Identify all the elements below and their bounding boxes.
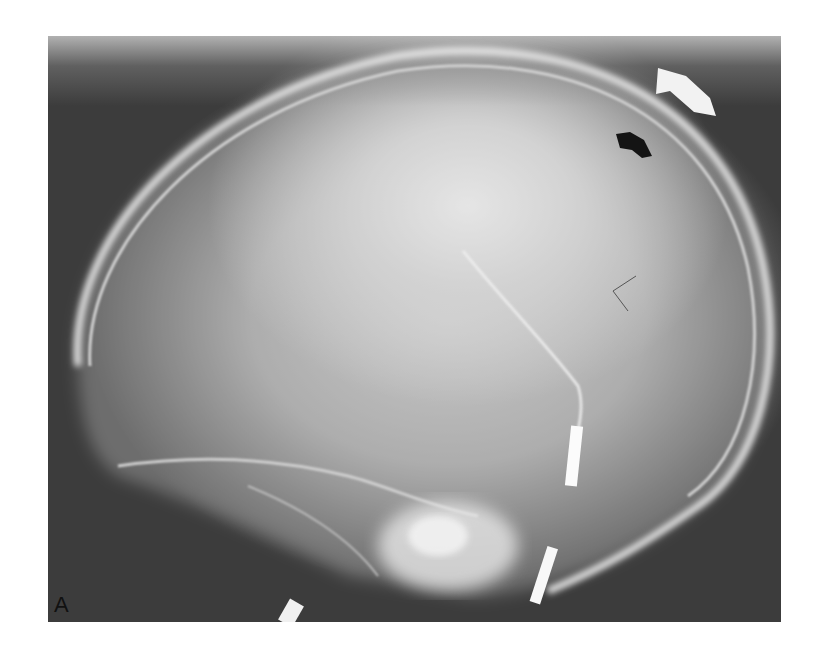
petrous-bone-core [408, 516, 468, 556]
radiograph-image: A [48, 36, 781, 622]
skull-xray-graphic [48, 36, 781, 622]
panel-label: A [54, 592, 69, 618]
clip-marker [278, 599, 304, 622]
